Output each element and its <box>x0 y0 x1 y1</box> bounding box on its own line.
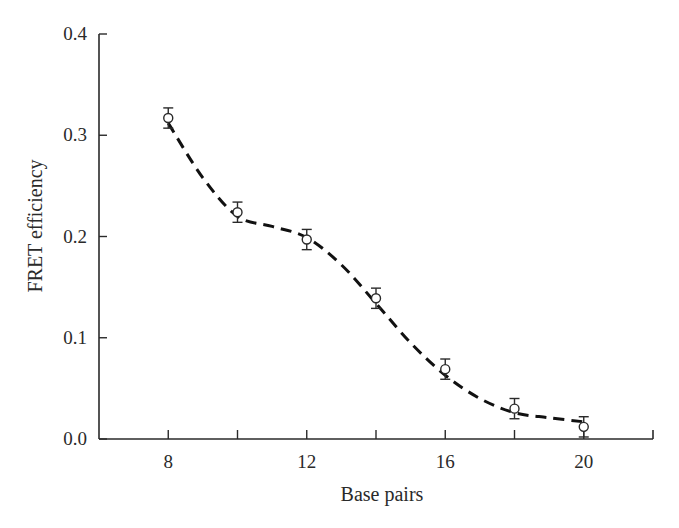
y-tick-label: 0.2 <box>63 226 87 247</box>
data-point <box>233 202 243 222</box>
open-circle-marker <box>510 404 519 413</box>
data-point <box>579 417 589 437</box>
open-circle-marker <box>579 422 588 431</box>
y-axis-title: FRET efficiency <box>24 159 47 292</box>
data-point <box>302 229 312 249</box>
open-circle-marker <box>372 294 381 303</box>
y-tick-label: 0.1 <box>63 327 87 348</box>
x-tick-label: 8 <box>164 451 174 472</box>
y-tick-label: 0.4 <box>63 23 87 44</box>
y-tick-label: 0.0 <box>63 428 87 449</box>
open-circle-marker <box>441 365 450 374</box>
x-axis-title: Base pairs <box>341 483 424 506</box>
x-tick-label: 20 <box>574 451 593 472</box>
fit-curve-path <box>168 123 584 422</box>
x-tick-label: 16 <box>436 451 455 472</box>
open-circle-marker <box>302 235 311 244</box>
axes: 0.00.10.20.30.48121620 <box>63 23 653 472</box>
open-circle-marker <box>164 114 173 123</box>
fret-efficiency-chart: 0.00.10.20.30.48121620 Base pairs FRET e… <box>0 0 679 528</box>
data-point <box>163 108 173 128</box>
x-tick-label: 12 <box>297 451 316 472</box>
open-circle-marker <box>233 208 242 217</box>
fit-curve <box>168 123 584 422</box>
data-point <box>510 399 520 419</box>
y-tick-label: 0.3 <box>63 124 87 145</box>
data-points <box>163 108 589 437</box>
